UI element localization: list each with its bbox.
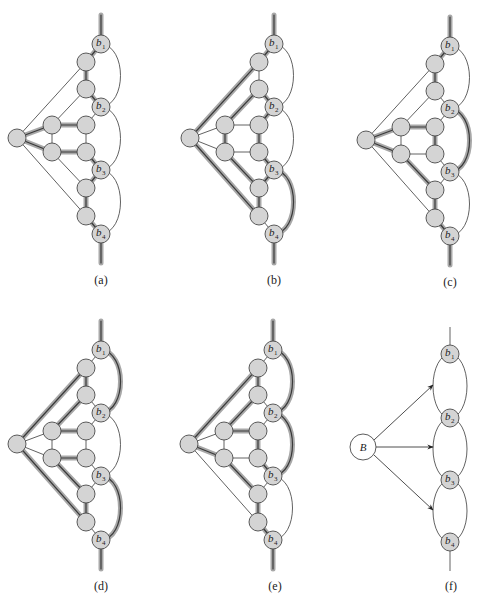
panel-label-d: (d)	[94, 579, 108, 593]
boundary-node-b1: b1	[441, 37, 459, 55]
arc-highlight-b3-b4	[101, 476, 121, 540]
arc-highlight-b2-b3	[273, 413, 293, 476]
node-d1	[77, 179, 95, 197]
node-R2	[250, 143, 268, 161]
arc-b1-b2	[274, 44, 294, 107]
panel-label-a: (a)	[94, 273, 107, 287]
node-c	[357, 131, 375, 149]
node-d1	[426, 181, 444, 199]
arc-b3-b4	[273, 476, 293, 540]
node-t2	[77, 386, 95, 404]
node-L1	[392, 118, 410, 136]
node-L1	[216, 116, 234, 134]
panel-c: b1b2b3b4(c)	[357, 17, 470, 289]
nodes: b1b2b3b4	[8, 341, 110, 549]
node-R1	[77, 422, 95, 440]
node-t2	[426, 82, 444, 100]
boundary-node-b3: b3	[92, 467, 110, 485]
node-R1	[426, 118, 444, 136]
node-sublabel-b1: 1	[451, 45, 455, 53]
panel-label-c: (c)	[443, 275, 456, 289]
boundary-node-b2: b2	[441, 409, 459, 427]
node-sublabel-b3: 3	[102, 475, 106, 483]
boundary-node-b4: b4	[265, 225, 283, 243]
node-sublabel-b3: 3	[451, 479, 455, 487]
arc-highlight-b2-b3	[450, 109, 470, 172]
node-sublabel-b1: 1	[451, 353, 455, 361]
graph-figure: b1b2b3b4(a)b1b2b3b4(b)b1b2b3b4(c)b1b2b3b…	[0, 0, 480, 601]
boundary-node-b3: b3	[92, 161, 110, 179]
node-L2	[215, 449, 233, 467]
node-c	[180, 435, 198, 453]
node-L2	[216, 143, 234, 161]
nodes: b1b2b3b4	[181, 35, 283, 243]
figure-canvas: b1b2b3b4(a)b1b2b3b4(b)b1b2b3b4(c)b1b2b3b…	[0, 0, 480, 601]
arc-b2-b3	[274, 107, 294, 170]
nodes: b1b2b3b4	[8, 35, 110, 243]
node-t1	[249, 359, 267, 377]
node-sublabel-b3: 3	[102, 169, 106, 177]
node-c	[181, 129, 199, 147]
node-d1	[249, 485, 267, 503]
nodes: b1b2b3b4	[180, 341, 282, 549]
node-d2	[77, 207, 95, 225]
arc-b3-b4	[101, 170, 121, 234]
boundary-node-b1: b1	[92, 35, 110, 53]
node-L2	[43, 449, 61, 467]
panels-layer: b1b2b3b4(a)b1b2b3b4(b)b1b2b3b4(c)b1b2b3b…	[8, 15, 470, 593]
node-d1	[250, 179, 268, 197]
boundary-node-b3: b3	[441, 163, 459, 181]
node-t1	[77, 359, 95, 377]
node-sublabel-b3: 3	[275, 169, 279, 177]
boundary-node-b3: b3	[441, 471, 459, 489]
node-R2	[77, 449, 95, 467]
boundary-node-b2: b2	[264, 404, 282, 422]
nodes: b1b2b3b4	[357, 37, 459, 245]
arc-b1-b2	[450, 46, 470, 109]
node-label-B: B	[360, 441, 367, 453]
boundary-node-b1: b1	[264, 341, 282, 359]
node-t1	[250, 53, 268, 71]
node-L1	[43, 116, 61, 134]
node-t1	[426, 55, 444, 73]
node-sublabel-b1: 1	[102, 43, 106, 51]
node-sublabel-b2: 2	[451, 417, 455, 425]
node-t2	[249, 386, 267, 404]
block-node-B: B	[350, 434, 376, 460]
arc-b1-b2	[101, 44, 121, 107]
arc-b2-b3	[101, 107, 121, 170]
node-d2	[250, 207, 268, 225]
node-sublabel-b4: 4	[274, 539, 278, 547]
node-R1	[249, 422, 267, 440]
node-sublabel-b1: 1	[102, 349, 106, 357]
boundary-node-b2: b2	[441, 100, 459, 118]
node-sublabel-b1: 1	[275, 43, 279, 51]
node-sublabel-b4: 4	[451, 235, 455, 243]
node-L1	[215, 422, 233, 440]
node-sublabel-b2: 2	[102, 412, 106, 420]
node-R2	[426, 145, 444, 163]
node-d1	[77, 485, 95, 503]
panel-f: Bb1b2b3b4(f)	[350, 327, 467, 593]
boundary-node-b1: b1	[441, 345, 459, 363]
panel-label-b: (b)	[267, 273, 281, 287]
boundary-node-b1: b1	[92, 341, 110, 359]
node-d2	[77, 513, 95, 531]
node-sublabel-b2: 2	[274, 412, 278, 420]
arc-b2-b3	[101, 413, 121, 476]
node-L2	[43, 143, 61, 161]
boundary-node-b2: b2	[265, 98, 283, 116]
node-R1	[77, 116, 95, 134]
boundary-node-b1: b1	[265, 35, 283, 53]
arrow-1	[374, 385, 433, 440]
node-d2	[426, 209, 444, 227]
node-L1	[43, 422, 61, 440]
panel-e: b1b2b3b4(e)	[180, 321, 293, 593]
node-t2	[77, 80, 95, 98]
node-sublabel-b3: 3	[274, 475, 278, 483]
boundary-node-b4: b4	[441, 227, 459, 245]
boundary-node-b4: b4	[441, 533, 459, 551]
boundary-node-b3: b3	[265, 161, 283, 179]
panel-a: b1b2b3b4(a)	[8, 15, 121, 287]
node-sublabel-b3: 3	[451, 171, 455, 179]
